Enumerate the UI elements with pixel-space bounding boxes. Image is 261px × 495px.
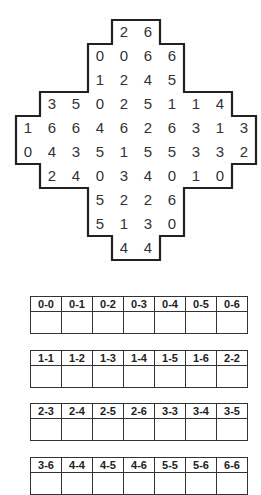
domino-label: 0-6 [217,297,248,312]
puzzle-cell: 2 [40,164,64,188]
puzzle-cell: 2 [112,20,136,44]
domino-answer-cell[interactable] [31,366,62,388]
puzzle-cell: 0 [16,140,40,164]
domino-puzzle-board: 2600661245350251141664626313043515533224… [0,0,261,270]
puzzle-cell: 4 [136,68,160,92]
puzzle-cell: 5 [136,140,160,164]
puzzle-cell: 1 [184,164,208,188]
puzzle-cell: 4 [64,164,88,188]
domino-table: 1-11-21-31-41-51-62-2 [30,350,248,388]
domino-answer-cell[interactable] [62,419,93,441]
domino-answer-row [31,312,248,334]
puzzle-cell: 4 [88,116,112,140]
domino-table: 0-00-10-20-30-40-50-6 [30,296,248,334]
domino-answer-cell[interactable] [124,312,155,334]
puzzle-cell: 3 [208,140,232,164]
domino-answer-cell[interactable] [62,312,93,334]
domino-label: 3-4 [186,404,217,419]
puzzle-cell: 0 [160,212,184,236]
puzzle-cell: 1 [184,92,208,116]
domino-label: 2-2 [217,351,248,366]
domino-answer-cell[interactable] [186,366,217,388]
puzzle-cell: 5 [88,212,112,236]
domino-label: 1-2 [62,351,93,366]
puzzle-cell: 5 [64,92,88,116]
domino-answer-cell[interactable] [31,473,62,495]
domino-label: 4-4 [62,458,93,473]
domino-answer-cell[interactable] [217,312,248,334]
domino-answer-cell[interactable] [155,366,186,388]
domino-answer-cell[interactable] [62,473,93,495]
puzzle-cell: 3 [232,116,256,140]
domino-answer-cell[interactable] [31,419,62,441]
domino-table: 2-32-42-52-63-33-43-5 [30,403,248,441]
puzzle-cell: 3 [64,140,88,164]
domino-answer-cell[interactable] [217,419,248,441]
domino-label: 6-6 [217,458,248,473]
domino-answer-row [31,366,248,388]
puzzle-cell: 2 [112,68,136,92]
puzzle-cell: 6 [136,44,160,68]
puzzle-cell: 6 [40,116,64,140]
domino-label: 1-6 [186,351,217,366]
puzzle-cell: 3 [112,164,136,188]
puzzle-cell: 5 [88,140,112,164]
puzzle-cell: 6 [112,116,136,140]
puzzle-cell: 4 [208,92,232,116]
puzzle-cell: 0 [208,164,232,188]
domino-answer-cell[interactable] [93,366,124,388]
puzzle-cell: 5 [136,92,160,116]
domino-answer-cell[interactable] [124,473,155,495]
puzzle-cell: 6 [160,44,184,68]
domino-answer-cell[interactable] [31,312,62,334]
puzzle-cell: 1 [112,212,136,236]
puzzle-cell: 3 [184,140,208,164]
puzzle-cell: 3 [40,92,64,116]
puzzle-cell: 2 [232,140,256,164]
domino-answer-cell[interactable] [93,473,124,495]
domino-table: 3-64-44-54-65-55-66-6 [30,457,248,495]
puzzle-cell: 1 [160,92,184,116]
domino-label: 1-5 [155,351,186,366]
puzzle-cell: 6 [160,116,184,140]
domino-answer-cell[interactable] [217,473,248,495]
domino-label: 1-3 [93,351,124,366]
domino-label: 5-6 [186,458,217,473]
domino-answer-cell[interactable] [186,419,217,441]
puzzle-cell: 5 [160,68,184,92]
domino-answer-cell[interactable] [62,366,93,388]
domino-answer-cell[interactable] [155,473,186,495]
puzzle-cell: 3 [184,116,208,140]
domino-answer-cell[interactable] [186,312,217,334]
domino-answer-cell[interactable] [124,419,155,441]
domino-answer-cell[interactable] [93,312,124,334]
domino-answer-cell[interactable] [155,312,186,334]
domino-label: 3-5 [217,404,248,419]
puzzle-cell: 5 [160,140,184,164]
puzzle-cell: 6 [160,188,184,212]
domino-label: 2-3 [31,404,62,419]
puzzle-cell: 2 [112,92,136,116]
puzzle-cell: 4 [136,164,160,188]
domino-answer-cell[interactable] [93,419,124,441]
domino-label: 0-4 [155,297,186,312]
domino-answer-row [31,473,248,495]
puzzle-cell: 4 [112,236,136,260]
domino-label: 4-5 [93,458,124,473]
puzzle-cell: 1 [16,116,40,140]
puzzle-cell: 2 [136,188,160,212]
puzzle-cell: 0 [112,44,136,68]
puzzle-cell: 4 [40,140,64,164]
puzzle-cell: 1 [88,68,112,92]
domino-label: 0-3 [124,297,155,312]
puzzle-cell: 1 [208,116,232,140]
domino-label: 4-6 [124,458,155,473]
puzzle-cell: 2 [112,188,136,212]
domino-answer-cell[interactable] [186,473,217,495]
domino-label-row: 2-32-42-52-63-33-43-5 [31,404,248,419]
domino-answer-cell[interactable] [217,366,248,388]
domino-label: 0-0 [31,297,62,312]
domino-answer-cell[interactable] [124,366,155,388]
domino-answer-cell[interactable] [155,419,186,441]
domino-label: 2-4 [62,404,93,419]
